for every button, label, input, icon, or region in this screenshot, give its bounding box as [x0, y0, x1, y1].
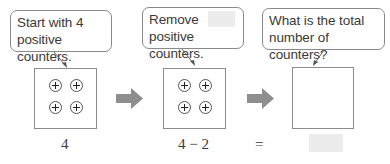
step2-counter-mat: [163, 68, 226, 129]
step2-expression: 4 − 2: [178, 136, 209, 153]
positive-counter: [49, 101, 62, 114]
positive-counter: [199, 101, 212, 114]
positive-counter: [199, 79, 212, 92]
positive-counter: [70, 101, 83, 114]
step3-counter-mat-empty: [292, 67, 354, 129]
step1-bubble-line1: Start with 4: [17, 14, 105, 31]
step2-bubble-line1: Remove: [149, 12, 199, 27]
remove-count-blank[interactable]: [208, 11, 235, 27]
step1-counter-mat: [34, 68, 97, 129]
right-arrow-icon: [116, 88, 144, 109]
positive-counter: [49, 79, 62, 92]
step1-pointer-icon: [52, 51, 72, 69]
step3-pointer-icon: [310, 49, 330, 67]
positive-counter: [178, 101, 191, 114]
step3-speech-bubble: What is the total number of counters?: [262, 8, 385, 50]
step2-pointer-icon: [180, 48, 200, 68]
step1-expression: 4: [61, 136, 69, 153]
answer-blank[interactable]: [309, 134, 343, 152]
step1-speech-bubble: Start with 4 positive counters.: [10, 10, 112, 52]
step2-speech-bubble: Remove positive counters.: [142, 7, 244, 49]
positive-counter: [70, 79, 83, 92]
step3-bubble-line1: What is the total: [269, 12, 378, 29]
equals-sign: =: [255, 136, 263, 153]
right-arrow-icon: [247, 88, 275, 109]
positive-counter: [178, 79, 191, 92]
